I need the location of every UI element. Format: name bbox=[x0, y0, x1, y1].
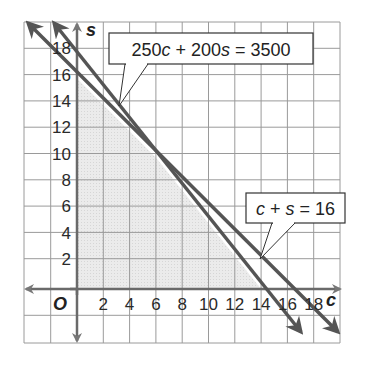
x-tick: 14 bbox=[252, 295, 271, 314]
y-tick: 16 bbox=[52, 66, 71, 85]
x-tick: 8 bbox=[177, 295, 186, 314]
x-tick: 18 bbox=[304, 295, 323, 314]
y-tick: 6 bbox=[62, 197, 71, 216]
x-axis-label: c bbox=[326, 290, 336, 310]
x-tick: 10 bbox=[199, 295, 218, 314]
y-tick: 2 bbox=[62, 250, 71, 269]
y-tick-labels: 2 4 6 8 10 12 14 16 18 bbox=[52, 39, 71, 269]
y-tick: 12 bbox=[52, 118, 71, 137]
graph: 2 4 6 8 10 12 14 16 18 2 4 6 8 10 12 14 … bbox=[0, 0, 372, 366]
callout-text: c + s = 16 bbox=[256, 199, 335, 219]
origin-label: O bbox=[53, 294, 67, 314]
y-tick: 18 bbox=[52, 39, 71, 58]
x-tick: 12 bbox=[225, 295, 244, 314]
y-tick: 4 bbox=[62, 224, 71, 243]
y-tick: 10 bbox=[52, 145, 71, 164]
x-tick: 6 bbox=[151, 295, 160, 314]
feasible-region bbox=[77, 79, 261, 289]
x-tick: 2 bbox=[99, 295, 108, 314]
y-tick: 14 bbox=[52, 92, 71, 111]
callout-250c-200s: 250c + 200s = 3500 bbox=[109, 33, 313, 106]
y-tick: 8 bbox=[62, 171, 71, 190]
x-tick: 16 bbox=[278, 295, 297, 314]
x-tick-labels: 2 4 6 8 10 12 14 16 18 bbox=[99, 295, 324, 314]
x-tick: 4 bbox=[125, 295, 134, 314]
y-axis-label: s bbox=[86, 20, 96, 40]
callout-text: 250c + 200s = 3500 bbox=[131, 40, 290, 60]
